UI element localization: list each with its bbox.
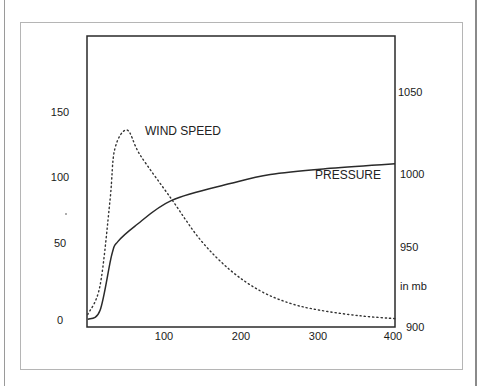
- right-axis-unit: in mb: [400, 280, 427, 292]
- x-tick-200: 200: [232, 330, 250, 342]
- right-axis: 1050 1000 950 in mb 900: [398, 86, 427, 333]
- left-tick-150: 150: [51, 106, 69, 118]
- left-axis: 150 100 50 0: [51, 106, 69, 326]
- chart: 150 100 50 0 1050 1000 950 in mb 900 100…: [0, 0, 482, 386]
- left-tick-50: 50: [54, 237, 66, 249]
- x-axis: 100 200 300 400: [155, 330, 402, 342]
- right-tick-1050: 1050: [398, 86, 422, 98]
- left-tick-100: 100: [51, 171, 69, 183]
- right-tick-900: 900: [406, 321, 424, 333]
- x-tick-300: 300: [309, 330, 327, 342]
- x-tick-400: 400: [384, 330, 402, 342]
- wind-speed-line: [88, 130, 395, 319]
- right-tick-1000: 1000: [400, 168, 424, 180]
- x-tick-100: 100: [155, 330, 173, 342]
- wind-speed-label: WIND SPEED: [145, 124, 221, 138]
- pressure-line: [88, 164, 395, 320]
- stray-dot: [65, 213, 67, 215]
- left-tick-0: 0: [57, 314, 63, 326]
- pressure-label: PRESSURE: [315, 168, 381, 182]
- right-tick-950: 950: [400, 241, 418, 253]
